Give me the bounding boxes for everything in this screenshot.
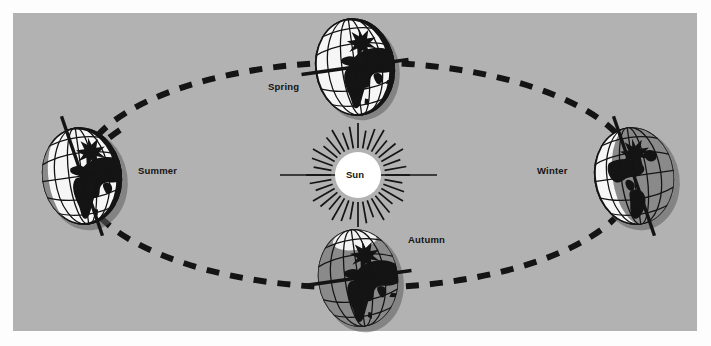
sun-ray (350, 202, 353, 220)
globe-winter (586, 108, 687, 243)
sun-ray (314, 167, 332, 170)
sun-ray (385, 180, 403, 183)
diagram-canvas: Sun Spring Summer Autumn Winter (0, 0, 711, 346)
sun-ray (363, 131, 366, 149)
globe-spring (295, 11, 416, 128)
sun-ray (385, 166, 407, 170)
sun-label: Sun (346, 169, 364, 180)
orbit-segment-winter-to-spring (358, 62, 636, 175)
sun-ray (310, 180, 332, 184)
globe-autumn (297, 217, 419, 340)
sun-ray (349, 127, 353, 149)
season-label-autumn: Autumn (408, 234, 445, 245)
season-label-winter: Winter (537, 165, 568, 176)
season-label-spring: Spring (268, 81, 299, 92)
sun-ray (343, 133, 349, 150)
season-label-summer: Summer (138, 165, 177, 176)
sun-ray (363, 202, 367, 224)
globe-summer (32, 108, 139, 243)
sun-ray (383, 160, 400, 166)
sun-ray (316, 184, 333, 190)
sun-ray (367, 200, 373, 217)
